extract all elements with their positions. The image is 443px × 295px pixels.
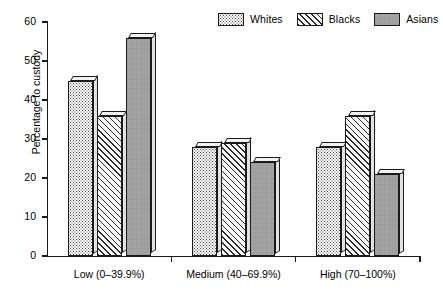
bar-blacks-0 bbox=[97, 116, 122, 256]
bar-blacks-1 bbox=[221, 143, 246, 256]
y-tick-label: 40 bbox=[8, 93, 36, 105]
bar-asians-0 bbox=[126, 38, 151, 256]
y-tick-label: 0 bbox=[8, 249, 36, 261]
x-axis-separator-tick bbox=[295, 256, 296, 262]
plot-area bbox=[47, 22, 420, 256]
y-tick-label: 50 bbox=[8, 54, 36, 66]
bar-front-face bbox=[345, 116, 370, 256]
bar-asians-2 bbox=[374, 174, 399, 256]
bar-whites-0 bbox=[68, 81, 93, 257]
bar-blacks-2 bbox=[345, 116, 370, 256]
x-group-label: Low (0–39.9%) bbox=[47, 268, 171, 280]
bar-front-face bbox=[192, 147, 217, 256]
bar-asians-1 bbox=[250, 162, 275, 256]
y-tick-label: 60 bbox=[8, 15, 36, 27]
bar-front-face bbox=[126, 38, 151, 256]
x-group-label: High (70–100%) bbox=[296, 268, 420, 280]
bar-side-face bbox=[399, 169, 404, 254]
bar-whites-2 bbox=[316, 147, 341, 256]
bar-front-face bbox=[374, 174, 399, 256]
bar-front-face bbox=[97, 116, 122, 256]
y-tick-label: 10 bbox=[8, 210, 36, 222]
bar-front-face bbox=[68, 81, 93, 257]
bar-side-face bbox=[151, 32, 156, 253]
bar-front-face bbox=[221, 143, 246, 256]
x-group-label: Medium (40–69.9%) bbox=[171, 268, 295, 280]
bar-front-face bbox=[250, 162, 275, 256]
x-axis-separator-tick bbox=[419, 256, 420, 262]
bar-side-face bbox=[275, 157, 280, 253]
bar-front-face bbox=[316, 147, 341, 256]
y-tick-label: 20 bbox=[8, 171, 36, 183]
bar-whites-1 bbox=[192, 147, 217, 256]
x-axis-separator-tick bbox=[171, 256, 172, 262]
y-tick-label: 30 bbox=[8, 132, 36, 144]
